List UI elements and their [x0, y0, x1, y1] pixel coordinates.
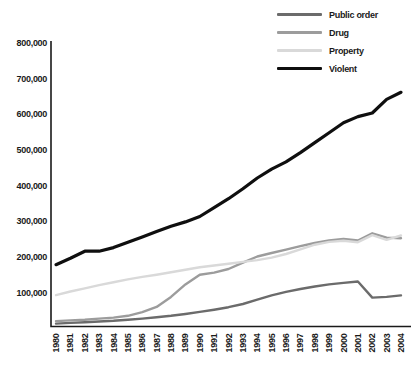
x-tick-label: 1995	[267, 334, 277, 353]
x-tick-label: 1985	[123, 334, 133, 353]
legend-swatch	[277, 13, 322, 15]
legend-swatch	[277, 67, 322, 70]
legend: Public orderDrugPropertyViolent	[277, 10, 378, 73]
x-tick-label: 1994	[252, 334, 262, 353]
legend-item-violent: Violent	[277, 64, 378, 73]
legend-item-public-order: Public order	[277, 10, 378, 19]
legend-label: Violent	[329, 64, 357, 74]
x-tick-label: 1988	[166, 334, 176, 353]
legend-item-property: Property	[277, 46, 378, 55]
y-tick-label: 400,000	[0, 181, 47, 192]
legend-item-drug: Drug	[277, 28, 378, 37]
y-tick-label: 800,000	[0, 38, 47, 49]
y-tick-label: 500,000	[0, 145, 47, 156]
legend-swatch	[277, 31, 322, 33]
x-tick-label: 1980	[51, 334, 61, 353]
x-tick-label: 2000	[339, 334, 349, 353]
x-tick-label: 1992	[224, 334, 234, 353]
x-tick-label: 2001	[353, 334, 363, 353]
legend-label: Public order	[329, 10, 378, 20]
line-chart: 800,000700,000600,000500,000400,000300,0…	[0, 0, 418, 365]
y-tick-label: 300,000	[0, 216, 47, 227]
x-tick-label: 1998	[310, 334, 320, 353]
y-tick-label: 600,000	[0, 109, 47, 120]
x-tick-label: 1991	[209, 334, 219, 353]
legend-swatch	[277, 49, 322, 51]
x-tick-label: 1999	[324, 334, 334, 353]
x-tick-label: 2003	[382, 334, 392, 353]
x-tick-label: 1989	[180, 334, 190, 353]
y-tick-label: 700,000	[0, 74, 47, 85]
x-tick-label: 1982	[80, 334, 90, 353]
x-tick-label: 1983	[94, 334, 104, 353]
series-line-property	[56, 235, 401, 295]
x-tick-label: 1990	[195, 334, 205, 353]
legend-label: Drug	[329, 28, 349, 38]
legend-label: Property	[329, 46, 364, 56]
x-tick-label: 2002	[367, 334, 377, 353]
x-tick-label: 2004	[396, 334, 406, 353]
x-tick-label: 1986	[137, 334, 147, 353]
x-tick-label: 1984	[109, 334, 119, 353]
x-tick-label: 1987	[152, 334, 162, 353]
x-tick-label: 1993	[238, 334, 248, 353]
x-tick-label: 1996	[281, 334, 291, 353]
x-tick-label: 1997	[295, 334, 305, 353]
y-tick-label: 200,000	[0, 252, 47, 263]
y-tick-label: 100,000	[0, 288, 47, 299]
x-tick-label: 1981	[65, 334, 75, 353]
